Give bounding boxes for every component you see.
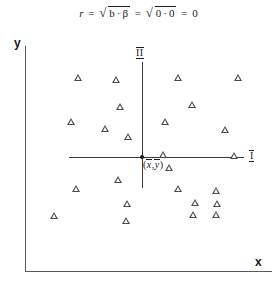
- data-point-marker: [212, 211, 220, 218]
- data-point-marker: [191, 199, 199, 206]
- data-point-marker: [159, 151, 167, 158]
- quadrant-ii-numeral: II: [136, 47, 144, 59]
- quadrant-ii-label: II: [136, 47, 144, 59]
- formula-radicand-1-term-a: b: [109, 7, 115, 19]
- data-point-marker: [123, 200, 131, 207]
- data-point-marker: [174, 185, 182, 192]
- formula-equals-2: =: [133, 7, 143, 19]
- formula-radicand-2: 0·0: [155, 6, 177, 20]
- scatter-plot-figure: r = √ b·β = √ 0·0 = 0 y x II I (x,y): [0, 0, 277, 287]
- x-axis-line: [25, 271, 272, 272]
- correlation-formula: r = √ b·β = √ 0·0 = 0: [0, 6, 277, 20]
- data-point-marker: [212, 187, 220, 194]
- quadrant-i-numeral: I: [249, 150, 254, 162]
- data-point-marker: [124, 133, 132, 140]
- data-point-marker: [74, 74, 82, 81]
- data-point-marker: [189, 211, 197, 218]
- data-point-marker: [188, 101, 196, 108]
- formula-radicand-1: b·β: [108, 6, 130, 20]
- data-point-marker: [50, 212, 58, 219]
- radical-sign-icon: √: [146, 5, 153, 21]
- data-point-marker: [122, 217, 130, 224]
- formula-radical-2: √ 0·0: [146, 6, 177, 20]
- centroid-close-paren: ): [160, 159, 163, 170]
- data-point-marker: [174, 74, 182, 81]
- data-point-marker: [101, 125, 109, 132]
- formula-lhs-variable: r: [79, 7, 83, 19]
- formula-radicand-1-term-b: β: [122, 7, 128, 19]
- radical-sign-icon: √: [99, 5, 106, 21]
- formula-radical-1: √ b·β: [99, 6, 130, 20]
- data-point-marker: [234, 74, 242, 81]
- data-point-marker: [116, 103, 124, 110]
- formula-radicand-2-term-b: 0: [169, 7, 175, 19]
- y-axis-line: [25, 46, 26, 272]
- y-axis-label: y: [14, 36, 21, 50]
- data-point-marker: [213, 200, 221, 207]
- data-point-marker: [72, 185, 80, 192]
- formula-equals-1: =: [86, 7, 96, 19]
- quadrant-i-label: I: [249, 150, 254, 162]
- data-point-marker: [161, 118, 169, 125]
- centroid-label: (x,y): [143, 159, 163, 171]
- data-point-marker: [221, 126, 229, 133]
- mean-y-reference-line: [69, 157, 244, 158]
- data-point-marker: [165, 164, 173, 171]
- data-point-marker: [67, 118, 75, 125]
- data-point-marker: [114, 176, 122, 183]
- data-point-marker: [230, 152, 238, 159]
- formula-result: 0: [192, 7, 198, 19]
- formula-radicand-2-dot: ·: [161, 7, 169, 19]
- x-axis-label: x: [255, 255, 262, 269]
- formula-equals-3: =: [179, 7, 189, 19]
- data-point-marker: [112, 76, 120, 83]
